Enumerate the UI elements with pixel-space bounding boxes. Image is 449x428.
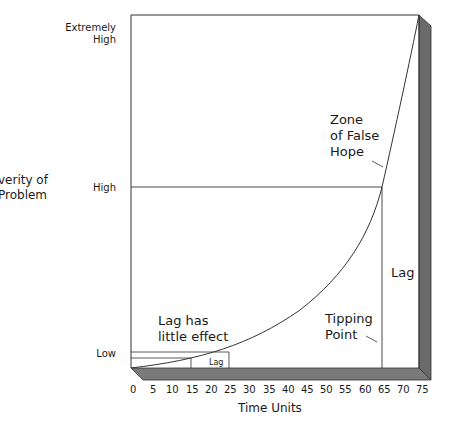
x-tick: 55 xyxy=(339,384,352,396)
lag-effect-line2: little effect xyxy=(158,329,228,345)
x-tick: 20 xyxy=(205,384,218,396)
y-label-low: Low xyxy=(60,348,116,360)
x-tick: 65 xyxy=(378,384,391,396)
x-tick: 60 xyxy=(359,384,372,396)
y-axis-title-line2: Problem xyxy=(0,188,70,203)
x-tick: 30 xyxy=(243,384,256,396)
y-label-extremely: Extremely xyxy=(60,22,116,34)
zone-of-false-hope-label: Zone of False Hope xyxy=(330,112,379,160)
right-wall xyxy=(419,15,431,380)
x-tick: 35 xyxy=(263,384,276,396)
zone-line3: Hope xyxy=(330,144,379,160)
tipping-line2: Point xyxy=(325,327,373,343)
x-tick: 0 xyxy=(130,384,136,396)
x-axis-title: Time Units xyxy=(238,400,302,416)
y-label-extremely-high: Extremely High xyxy=(60,22,116,46)
lag-effect-line1: Lag has xyxy=(158,313,228,329)
tipping-point-label: Tipping Point xyxy=(325,311,373,343)
lag-little-effect-label: Lag has little effect xyxy=(158,313,228,345)
x-tick: 75 xyxy=(416,384,429,396)
zone-line1: Zone xyxy=(330,112,379,128)
x-tick: 45 xyxy=(301,384,314,396)
x-tick: 25 xyxy=(224,384,237,396)
zone-pointer xyxy=(372,161,383,167)
tipping-line1: Tipping xyxy=(325,311,373,327)
zone-line2: of False xyxy=(330,128,379,144)
x-tick: 5 xyxy=(150,384,156,396)
lag-small-label: Lag xyxy=(209,358,223,367)
chart-canvas xyxy=(0,0,449,428)
y-axis-title-line1: verity of xyxy=(0,173,70,188)
lag-large-label: Lag xyxy=(391,265,414,281)
y-axis-title: verity of Problem xyxy=(0,173,70,203)
x-tick: 50 xyxy=(320,384,333,396)
x-tick: 70 xyxy=(397,384,410,396)
x-tick: 40 xyxy=(282,384,295,396)
x-tick: 10 xyxy=(166,384,179,396)
x-tick: 15 xyxy=(186,384,199,396)
y-label-high-word: High xyxy=(60,34,116,46)
floor-slab xyxy=(131,368,431,380)
